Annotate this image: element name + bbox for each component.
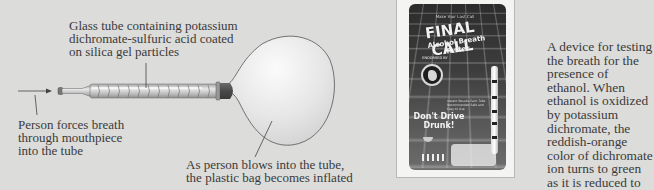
package-slogan: Don't Drive Drunk! (409, 112, 479, 130)
package-endorsed: ENDORSED BY (409, 56, 475, 60)
breath-label: Person forces breath through mouthpiece … (18, 118, 124, 157)
product-photo: Make Your Last Call FINAL CALL Alcohol B… (396, 0, 515, 178)
figure-caption: A device for testing the breath for the … (547, 40, 654, 190)
barcode-icon (422, 154, 444, 161)
plastic-bag (228, 36, 334, 145)
caption-text: A device for testing the breath for the … (547, 39, 653, 190)
tube-cap (220, 83, 233, 99)
blister-pack (451, 144, 496, 166)
bag-label: As person blows into the tube, the plast… (186, 158, 353, 184)
tube-label: Glass tube containing potassium dichroma… (69, 19, 238, 58)
endorsement-seal-icon (421, 64, 443, 86)
tester-tube (491, 66, 498, 154)
breath-pointer (35, 95, 37, 115)
breath-tester-package: Make Your Last Call FINAL CALL Alcohol B… (409, 4, 506, 170)
package-instructions: Instant Results Each Tube Recommended Sa… (447, 99, 487, 111)
